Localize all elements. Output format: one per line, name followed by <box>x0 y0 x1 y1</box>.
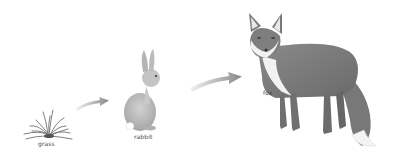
label-fox: fox <box>263 89 272 96</box>
rabbit-illustration <box>124 49 160 131</box>
food-chain-diagram: grass rabbit fox <box>0 0 394 159</box>
fox-illustration <box>249 13 376 146</box>
arrow-grass-to-rabbit <box>76 97 109 111</box>
diagram-canvas <box>0 0 394 159</box>
label-grass: grass <box>38 140 55 147</box>
arrow-rabbit-to-fox <box>190 72 242 92</box>
label-rabbit: rabbit <box>134 133 152 140</box>
grass-illustration <box>24 110 72 139</box>
